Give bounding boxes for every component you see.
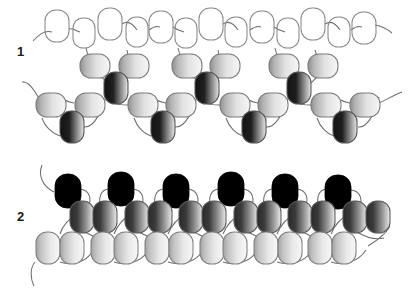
unit-light-gradient [172,54,202,78]
figure-caption [0,279,410,288]
unit-outline [301,8,325,40]
unit-dark-gradient [257,201,281,233]
unit-outline [250,11,274,43]
unit-light-gradient [254,232,278,264]
unit-light-gradient [200,232,224,264]
unit-dark-gradient [366,201,390,233]
panel-2-group [31,165,390,286]
unit-dark-gradient [125,201,149,233]
unit-light-gradient [114,232,138,264]
unit-dark-gradient [333,111,357,143]
unit-outline [45,10,69,42]
unit-light-gradient [169,232,193,264]
unit-outline [126,17,148,47]
unit-outline [175,18,197,48]
panel-1-units [36,8,380,143]
unit-outline [328,17,350,47]
unit-outline [199,8,223,40]
panel-1-group [22,8,402,143]
unit-light-gradient [128,93,158,117]
unit-light-gradient [308,232,332,264]
unit-outline [225,17,247,47]
unit-dark-gradient [148,201,172,233]
unit-outline [277,18,299,48]
unit-solid-black [108,172,134,206]
unit-dark-gradient [179,201,203,233]
unit-outline [352,12,376,44]
unit-solid-black [218,172,244,206]
unit-dark-gradient [60,111,84,143]
unit-light-gradient [278,232,302,264]
unit-light-gradient [80,54,110,78]
unit-dark-gradient [242,111,266,143]
unit-light-gradient [91,232,115,264]
unit-outline [98,8,122,40]
unit-dark-gradient [287,72,311,104]
figure-root: 1 2 [0,0,410,288]
unit-outline [149,11,173,43]
unit-dark-gradient [202,201,226,233]
unit-dark-gradient [234,201,258,233]
unit-light-gradient [350,93,380,117]
panel-label-1: 1 [17,45,24,58]
unit-dark-gradient [195,72,219,104]
unit-outline [73,18,95,48]
unit-dark-gradient [343,201,367,233]
unit-light-gradient [36,93,66,117]
unit-dark-gradient [104,72,128,104]
unit-light-gradient [60,232,84,264]
unit-light-gradient [145,232,169,264]
unit-dark-gradient [288,201,312,233]
unit-dark-gradient [151,111,175,143]
unit-dark-gradient [311,201,335,233]
unit-dark-gradient [70,201,94,233]
unit-light-gradient [332,232,356,264]
panel-2-units [36,172,390,264]
figure-canvas [0,0,410,288]
unit-dark-gradient [93,201,117,233]
unit-light-gradient [308,54,338,78]
unit-light-gradient [223,232,247,264]
unit-light-gradient [36,232,60,264]
panel-label-2: 2 [17,210,24,223]
